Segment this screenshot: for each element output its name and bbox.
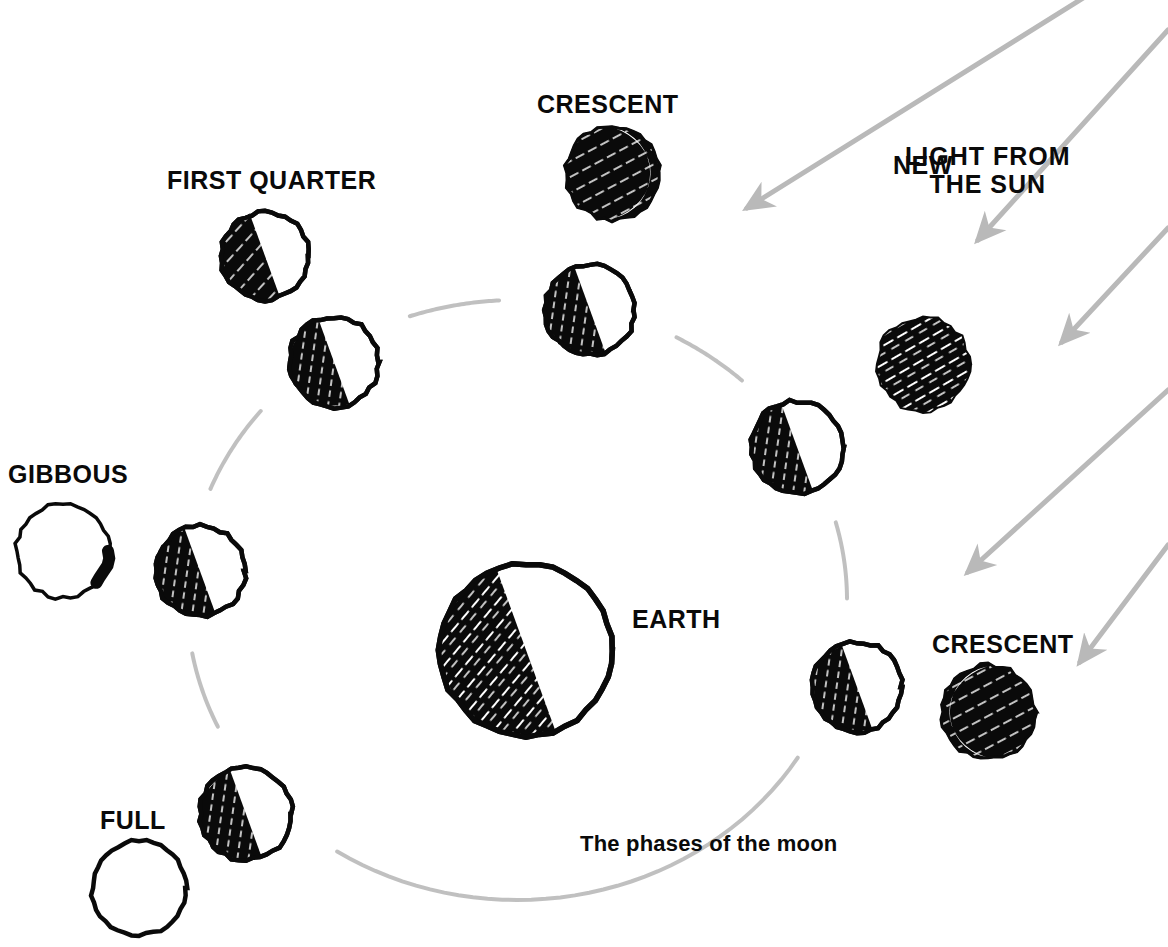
diagram-caption: The phases of the moon [580, 832, 837, 857]
label-first-quarter: FIRST QUARTER [167, 166, 376, 194]
label-crescent-bottom: CRESCENT [932, 630, 1074, 658]
orbit-moon-1 [486, 234, 634, 414]
orbit-arc-segment [410, 300, 499, 316]
label-earth: EARTH [632, 605, 721, 633]
orbit-arc-segment [192, 653, 218, 726]
sun-ray-arrow [1062, 228, 1168, 342]
earth-globe [328, 505, 613, 849]
orbit-moon-2 [691, 369, 844, 553]
phase-moon-gibbous [15, 504, 111, 599]
orbit-arc-segment [210, 411, 260, 489]
phase-moon-first-quarter [163, 182, 308, 358]
label-full: FULL [100, 806, 166, 834]
sun-rays-group [747, 0, 1168, 662]
phase-moon-full [91, 840, 187, 936]
moon-phases-diagram: FIRST QUARTER CRESCENT LIGHT FROM THE SU… [0, 0, 1168, 947]
orbit-moon-6 [230, 286, 379, 466]
sun-ray-arrow [1080, 545, 1168, 662]
label-gibbous: GIBBOUS [8, 460, 128, 488]
phase-moon-crescent-top [565, 127, 661, 222]
label-crescent-top: CRESCENT [537, 90, 679, 118]
orbit-arc-segment [337, 758, 798, 900]
earth-body [328, 505, 613, 849]
phase-moons-group [15, 127, 1037, 936]
label-new: NEW [893, 151, 953, 179]
sun-ray-arrow [978, 30, 1168, 240]
orbit-arc-segment [836, 522, 847, 598]
phase-moon-new [876, 317, 971, 413]
sun-ray-arrow [968, 390, 1168, 572]
orbit-moon-3 [753, 611, 902, 791]
phase-moon-crescent-bottom [941, 663, 1037, 758]
orbit-arc-segment [676, 337, 742, 380]
orbit-moon-5 [96, 495, 246, 675]
